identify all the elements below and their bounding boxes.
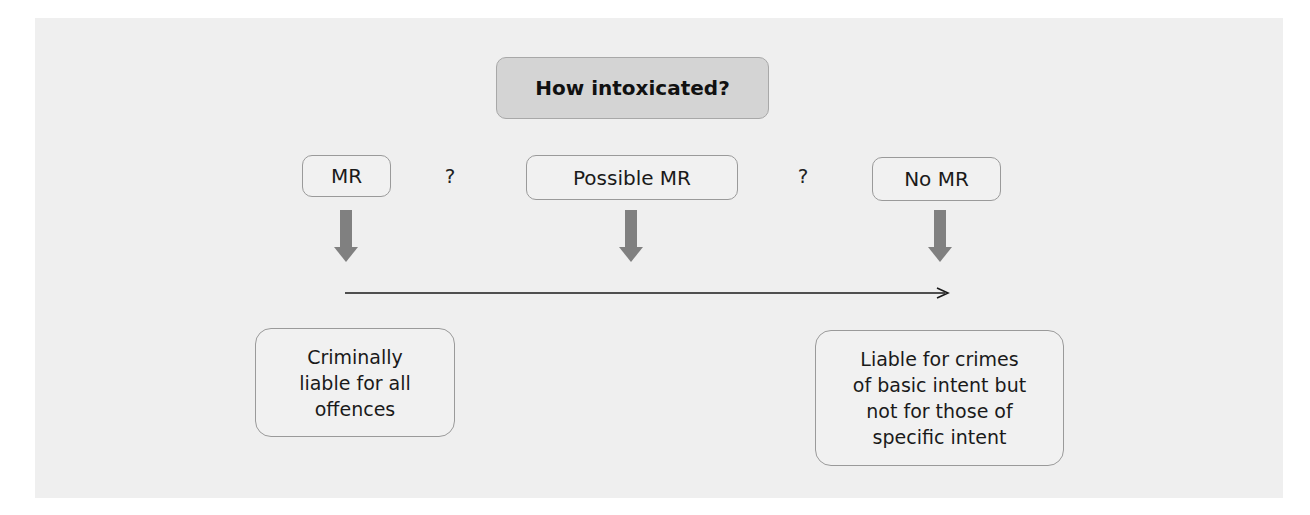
level-mr-label: MR [331,164,362,188]
level-no-mr-box: No MR [872,157,1001,201]
intoxication-scale-arrow [345,286,951,300]
outcome-line: offences [299,396,411,422]
outcome-line: Criminally [299,344,411,370]
separator-question-1: ? [440,164,460,188]
outcome-criminally-liable-box: Criminally liable for all offences [255,328,455,437]
title-label: How intoxicated? [535,76,729,100]
level-no-mr-label: No MR [904,167,969,191]
level-possible-mr-box: Possible MR [526,155,738,200]
down-arrow-icon [619,210,643,263]
outcome-line: not for those of [853,398,1026,424]
separator-question-2: ? [793,164,813,188]
outcome-line: Liable for crimes [853,346,1026,372]
title-box: How intoxicated? [496,57,769,119]
down-arrow-icon [334,210,358,263]
outcome-line: specific intent [853,424,1026,450]
down-arrow-icon [928,210,952,263]
level-possible-mr-label: Possible MR [573,166,691,190]
level-mr-box: MR [302,155,391,197]
outcome-line: liable for all [299,370,411,396]
outcome-basic-intent-box: Liable for crimes of basic intent but no… [815,330,1064,466]
outcome-line: of basic intent but [853,372,1026,398]
